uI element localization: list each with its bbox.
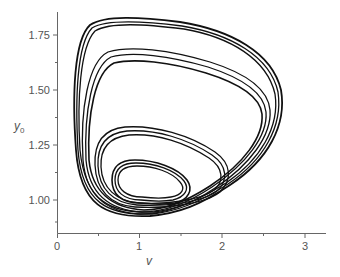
innermost-loops xyxy=(112,160,190,204)
y-axis-label: y0 xyxy=(14,119,24,135)
y-tick-label: 1.25 xyxy=(20,140,50,151)
outer-loops xyxy=(74,18,282,216)
plot-area xyxy=(0,0,340,277)
phase-portrait-chart: 1.75 1.50 1.25 1.00 0 1 2 3 y0 v xyxy=(0,0,340,277)
y-tick-label: 1.75 xyxy=(20,30,50,41)
x-tick-label: 1 xyxy=(131,241,147,252)
trajectory xyxy=(74,18,282,216)
y-tick-label: 1.50 xyxy=(20,85,50,96)
x-tick-label: 3 xyxy=(297,241,313,252)
x-tick-label: 0 xyxy=(49,241,65,252)
x-tick-label: 2 xyxy=(214,241,230,252)
y-tick-label: 1.00 xyxy=(20,195,50,206)
x-axis-label: v xyxy=(146,254,152,268)
